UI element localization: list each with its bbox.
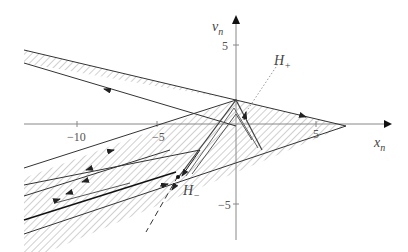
x-axis-label: xn [374, 136, 385, 153]
upper-band-top-line [24, 50, 346, 126]
h-plus-label: H+ [274, 54, 291, 71]
y-tick-neg5: −5 [218, 199, 231, 211]
y-tick-5: 5 [222, 40, 228, 52]
x-tick-neg10: −10 [67, 131, 86, 143]
x-tick-5: 5 [313, 128, 319, 140]
phase-diagram: xn vn −10 −5 5 5 −5 H+ H− [0, 0, 408, 252]
upper-band-bottom-line [24, 63, 236, 126]
y-axis-arrow-icon [232, 15, 240, 24]
y-axis-label: vn [212, 20, 223, 37]
diagram-canvas [0, 0, 408, 252]
mask-left [0, 0, 24, 252]
h-minus-label: H− [183, 184, 200, 201]
x-tick-neg5: −5 [152, 131, 165, 143]
h-minus-point [176, 175, 180, 179]
